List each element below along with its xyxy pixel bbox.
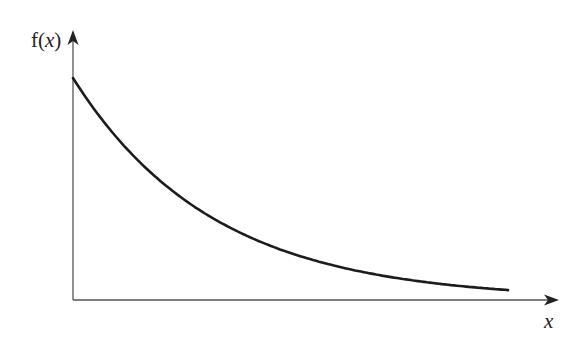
y-axis-label-prefix: f( <box>31 28 45 52</box>
x-axis-label: x <box>544 311 553 332</box>
y-axis-label: f(x) <box>31 30 61 51</box>
chart-canvas <box>0 0 573 339</box>
decay-curve <box>73 78 508 290</box>
y-axis-label-variable: x <box>45 28 54 52</box>
y-axis-label-suffix: ) <box>54 28 61 52</box>
